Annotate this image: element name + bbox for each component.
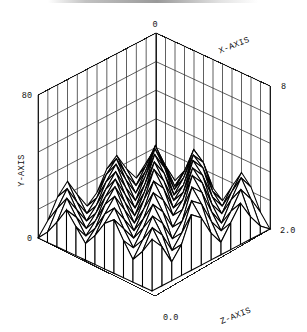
x-axis-title: X-AXIS bbox=[217, 35, 251, 56]
y-axis-title: Y-AXIS bbox=[17, 154, 27, 186]
z-axis-tick-max: 2.0 bbox=[280, 226, 295, 236]
x-axis-tick-min: 0 bbox=[152, 20, 157, 30]
z-axis-tick-min: 0.0 bbox=[163, 313, 178, 323]
x-axis-tick-max: 8 bbox=[281, 82, 286, 92]
plot-canvas: 0 8 0 80 0.0 2.0 X-AXIS Y-AXIS Z-AXIS bbox=[0, 0, 307, 332]
surface-plot-figure: 0 8 0 80 0.0 2.0 X-AXIS Y-AXIS Z-AXIS bbox=[0, 0, 307, 332]
z-axis-title: Z-AXIS bbox=[219, 305, 253, 326]
y-axis-tick-min: 0 bbox=[27, 234, 32, 244]
y-axis-tick-max: 80 bbox=[22, 91, 32, 101]
